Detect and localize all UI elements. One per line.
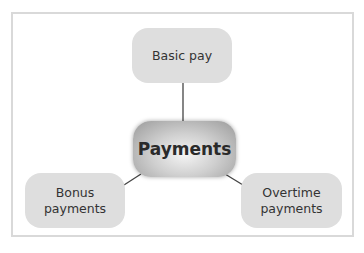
- node-overtime-payments: Overtime payments: [241, 173, 342, 228]
- node-label-line1: Overtime: [260, 185, 322, 201]
- node-payments-center: Payments: [133, 121, 236, 177]
- node-label: Basic pay: [152, 48, 212, 64]
- node-label-line2: payments: [260, 201, 322, 217]
- node-label-line2: payments: [44, 201, 106, 217]
- center-label: Payments: [138, 141, 232, 157]
- node-bonus-payments: Bonus payments: [25, 173, 125, 228]
- node-basic-pay: Basic pay: [132, 28, 232, 83]
- node-label-line1: Bonus: [44, 185, 106, 201]
